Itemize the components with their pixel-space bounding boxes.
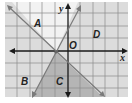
x-axis-label: x	[119, 52, 125, 63]
region-a-label: A	[33, 18, 41, 29]
y-axis-label: y	[58, 3, 64, 14]
region-d-label: D	[93, 29, 100, 40]
coordinate-plane-diagram: y x O A B C D	[0, 0, 132, 103]
region-b-label: B	[21, 76, 28, 87]
region-c-label: C	[56, 76, 64, 87]
intersection-point	[54, 50, 57, 53]
origin-label: O	[69, 40, 77, 51]
